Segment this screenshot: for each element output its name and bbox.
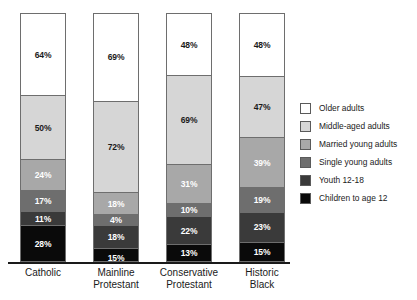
bar-segment: 13%	[167, 244, 211, 261]
category-label-line1: Mainline	[97, 267, 134, 278]
segment-value-label: 24%	[35, 170, 52, 180]
bar-segment: 28%	[21, 225, 65, 261]
bar-segment: 50%	[21, 95, 65, 159]
segment-value-label: 18%	[108, 232, 125, 242]
segment-value-label: 22%	[181, 226, 198, 236]
bar-segment: 39%	[240, 137, 284, 187]
legend-item-label: Children to age 12	[319, 193, 387, 203]
segment-value-label: 15%	[254, 247, 271, 257]
legend-swatch-icon	[300, 193, 311, 204]
segment-value-label: 28%	[35, 239, 52, 249]
category-label-line1: Catholic	[25, 267, 61, 278]
plot-area: 64% 50% 24% 17% 11% 28% 69% 72% 18% 4% 1…	[0, 0, 300, 300]
segment-value-label: 50%	[35, 123, 52, 133]
segment-value-label: 18%	[108, 199, 125, 209]
legend-swatch-icon	[300, 139, 311, 150]
bar-segment: 47%	[240, 76, 284, 137]
category-label-line1: Conservative	[160, 267, 218, 278]
bar-segment: 69%	[94, 14, 138, 101]
bar-segment: 15%	[94, 248, 138, 262]
segment-value-label: 19%	[254, 195, 271, 205]
segment-value-label: 17%	[35, 196, 52, 206]
segment-value-label: 4%	[110, 215, 122, 225]
category-label-line1: Historic	[245, 267, 278, 278]
bar-segment: 64%	[21, 14, 65, 95]
segment-value-label: 47%	[254, 102, 271, 112]
segment-value-label: 48%	[181, 40, 198, 50]
segment-value-label: 39%	[254, 158, 271, 168]
segment-value-label: 31%	[181, 179, 198, 189]
segment-value-label: 69%	[108, 52, 125, 62]
x-axis-category-label-historic-black: Historic Black	[217, 267, 307, 290]
bar-segment: 24%	[21, 159, 65, 190]
legend-item[interactable]: Single young adults	[300, 153, 417, 171]
bar-segment: 31%	[167, 164, 211, 204]
legend-item-label: Single young adults	[319, 157, 392, 167]
legend-item-label: Youth 12-18	[319, 175, 364, 185]
bar-segment: 15%	[240, 242, 284, 261]
legend-item[interactable]: Older adults	[300, 99, 417, 117]
legend-swatch-icon	[300, 157, 311, 168]
bar-column-historic-black[interactable]: 48% 47% 39% 19% 23% 15%	[239, 13, 285, 262]
bar-segment: 10%	[167, 203, 211, 216]
legend-swatch-icon	[300, 175, 311, 186]
legend-swatch-icon	[300, 103, 311, 114]
bar-segment: 11%	[21, 211, 65, 225]
legend-item[interactable]: Children to age 12	[300, 189, 417, 207]
bar-segment: 18%	[94, 225, 138, 248]
bar-segment: 72%	[94, 101, 138, 192]
legend-item[interactable]: Youth 12-18	[300, 171, 417, 189]
legend-item-label: Middle-aged adults	[319, 121, 390, 131]
legend-swatch-icon	[300, 121, 311, 132]
segment-value-label: 10%	[181, 205, 198, 215]
category-label-line2: Black	[217, 279, 307, 291]
segment-value-label: 15%	[108, 253, 125, 262]
bar-column-conservative-protestant[interactable]: 48% 69% 31% 10% 22% 13%	[166, 13, 212, 262]
segment-value-label: 69%	[181, 115, 198, 125]
legend-item-label: Married young adults	[319, 139, 397, 149]
bar-segment: 4%	[94, 214, 138, 225]
bar-segment: 17%	[21, 190, 65, 212]
segment-value-label: 23%	[254, 222, 271, 232]
segment-value-label: 48%	[254, 40, 271, 50]
bar-column-catholic[interactable]: 64% 50% 24% 17% 11% 28%	[20, 13, 66, 262]
bar-segment: 69%	[167, 75, 211, 163]
bar-column-mainline-protestant[interactable]: 69% 72% 18% 4% 18% 15%	[93, 13, 139, 262]
segment-value-label: 13%	[181, 248, 198, 258]
bar-segment: 18%	[94, 192, 138, 215]
segment-value-label: 11%	[35, 214, 51, 224]
chart-legend: Older adults Middle-aged adults Married …	[300, 99, 417, 207]
bar-segment: 19%	[240, 187, 284, 212]
legend-item-label: Older adults	[319, 103, 364, 113]
bar-segment: 48%	[240, 14, 284, 76]
segment-value-label: 72%	[108, 142, 125, 152]
segment-value-label: 64%	[35, 50, 52, 60]
stacked-bar-chart: 64% 50% 24% 17% 11% 28% 69% 72% 18% 4% 1…	[0, 0, 417, 300]
x-axis-line	[8, 262, 290, 264]
bar-segment: 23%	[240, 212, 284, 242]
legend-item[interactable]: Middle-aged adults	[300, 117, 417, 135]
bar-segment: 22%	[167, 216, 211, 244]
bar-segment: 48%	[167, 14, 211, 75]
legend-item[interactable]: Married young adults	[300, 135, 417, 153]
